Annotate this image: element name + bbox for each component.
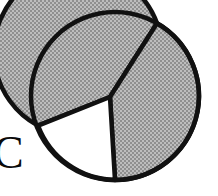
slice-label-c: C — [0, 127, 27, 179]
pie-chart-figure: C — [0, 0, 218, 196]
pie-chart-svg — [0, 0, 218, 196]
